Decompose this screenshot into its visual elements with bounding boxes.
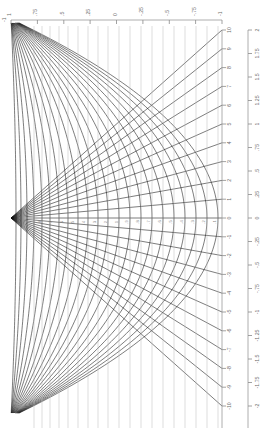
right-inner-axis-tick-label: -7 bbox=[226, 347, 232, 352]
conformal-grid-plot: 1.75.5.250-.25-.5-.75-1-1109876543210-1-… bbox=[0, 0, 268, 438]
right-inner-axis-tick-label: 5 bbox=[226, 122, 232, 125]
right-inner-axis-tick-label: -1 bbox=[226, 234, 232, 239]
right-inner-axis-tick-label: -2 bbox=[226, 253, 232, 258]
right-outer-axis-tick-label: .5 bbox=[254, 169, 260, 173]
top-axis-corner-label: -1 bbox=[1, 17, 7, 22]
top-axis-tick-label: .25 bbox=[85, 9, 91, 16]
ray-curve bbox=[11, 180, 222, 218]
center-row-inline-label: .8 bbox=[135, 220, 140, 224]
top-axis-tick-label: .5 bbox=[59, 12, 65, 16]
center-row-inline-label: .1 bbox=[212, 220, 217, 224]
right-inner-axis-tick-label: -6 bbox=[226, 328, 232, 333]
ray-curve bbox=[11, 105, 222, 218]
ray-curve bbox=[11, 218, 222, 293]
right-outer-axis-tick-label: 1.5 bbox=[254, 73, 260, 80]
right-inner-axis-tick-label: 0 bbox=[226, 216, 232, 219]
right-outer-axis-tick-label: -1.75 bbox=[254, 376, 260, 388]
right-outer-axis-tick-label: 1 bbox=[254, 122, 260, 125]
right-outer-axis-tick-label: -1 bbox=[254, 310, 260, 315]
right-inner-axis-tick-label: 3 bbox=[226, 160, 232, 163]
center-row-inline-label: 5 bbox=[70, 220, 75, 223]
ray-curve bbox=[11, 218, 222, 312]
right-outer-axis-tick-label: -1.5 bbox=[254, 354, 260, 363]
right-inner-axis-tick-label: -4 bbox=[226, 291, 232, 296]
right-outer-axis-tick-label: 1.75 bbox=[254, 48, 260, 58]
top-axis-tick-label: -.75 bbox=[191, 7, 197, 16]
right-outer-axis-tick-label: -.75 bbox=[254, 284, 260, 293]
right-outer-axis-tick-label: -1.25 bbox=[254, 329, 260, 341]
ray-curve bbox=[11, 124, 222, 218]
right-outer-axis-tick-label: 0 bbox=[254, 216, 260, 219]
top-axis-tick-label: 0 bbox=[112, 13, 118, 16]
right-outer-axis-tick-label: .25 bbox=[254, 191, 260, 198]
ray-curve bbox=[11, 199, 222, 218]
center-row-inline-label: 1 bbox=[114, 220, 119, 223]
ray-curve bbox=[11, 218, 222, 331]
center-row-inline-label: 2 bbox=[103, 220, 108, 223]
right-inner-axis-tick-label: 7 bbox=[226, 85, 232, 88]
center-row-inline-label: .7 bbox=[146, 220, 151, 224]
top-axis-tick-label: 1 bbox=[6, 13, 12, 16]
center-row-inline-label: .9 bbox=[124, 220, 129, 224]
right-outer-axis-tick-label: -2 bbox=[254, 404, 260, 409]
ray-curve bbox=[11, 86, 222, 218]
right-inner-axis-tick-label: 2 bbox=[226, 179, 232, 182]
center-row-inline-label: .6 bbox=[157, 220, 162, 224]
figure-root: 1.75.5.250-.25-.5-.75-1-1109876543210-1-… bbox=[0, 0, 268, 438]
center-row-inline-label: 6 bbox=[59, 220, 64, 223]
right-inner-axis-tick-label: 6 bbox=[226, 104, 232, 107]
ray-curve bbox=[11, 218, 222, 387]
right-inner-axis-tick-label: 10 bbox=[226, 27, 232, 33]
center-row-inline-label: 4 bbox=[81, 220, 86, 223]
ray-curve bbox=[11, 143, 222, 218]
right-inner-axis-tick-label: -3 bbox=[226, 272, 232, 277]
right-inner-axis-tick-label: -10 bbox=[226, 402, 232, 410]
grid-curves bbox=[11, 23, 222, 428]
right-inner-axis-tick-label: -5 bbox=[226, 310, 232, 315]
right-outer-axis-tick-label: .75 bbox=[254, 144, 260, 151]
center-row-inline-label: 7 bbox=[48, 220, 53, 223]
top-axis-tick-label: -.5 bbox=[164, 10, 170, 16]
center-row-inline-label: .4 bbox=[179, 220, 184, 224]
ray-curve bbox=[11, 218, 222, 368]
right-outer-axis-tick-label: -.5 bbox=[254, 262, 260, 268]
center-row-inline-label: .2 bbox=[201, 220, 206, 224]
right-inner-axis-tick-label: 1 bbox=[226, 198, 232, 201]
right-inner-axis-tick-label: 8 bbox=[226, 66, 232, 69]
top-axis-tick-label: .75 bbox=[32, 9, 38, 16]
ray-curve bbox=[11, 218, 222, 350]
top-axis-tick-label: -.25 bbox=[138, 7, 144, 16]
right-outer-axis-tick-label: 1.25 bbox=[254, 95, 260, 105]
ray-curve bbox=[11, 49, 222, 218]
right-inner-axis-tick-label: 4 bbox=[226, 141, 232, 144]
right-outer-axis-tick-label: -.25 bbox=[254, 237, 260, 246]
right-inner-axis-tick-label: -8 bbox=[226, 366, 232, 371]
right-inner-axis-tick-label: -9 bbox=[226, 385, 232, 390]
ray-curve bbox=[11, 68, 222, 218]
center-row-inline-label: 3 bbox=[92, 220, 97, 223]
right-inner-axis-tick-label: 9 bbox=[226, 47, 232, 50]
top-axis-tick-label: -1 bbox=[217, 11, 223, 16]
center-row-inline-label: .3 bbox=[190, 220, 195, 224]
center-row-inline-label: .5 bbox=[168, 220, 173, 224]
right-outer-axis-tick-label: 2 bbox=[254, 28, 260, 31]
